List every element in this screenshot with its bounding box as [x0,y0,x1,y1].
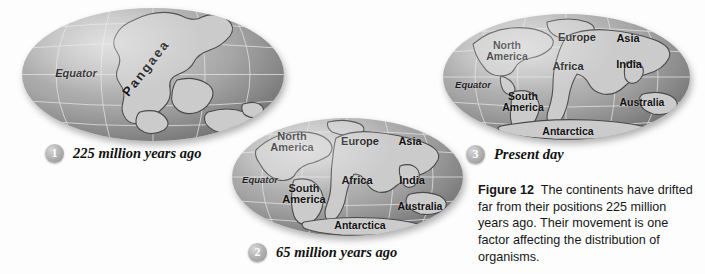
step-label-2: 65 million years ago [276,244,397,261]
step-label-1: 225 million years ago [73,145,202,162]
step-badge-2: 2 [248,243,267,262]
step-badge-3: 3 [466,145,485,164]
figure-caption-number: Figure 12 [478,183,534,197]
figure-continental-drift: Equator Pangaea 1 225 million years ago [0,0,705,274]
globe-present-day: Equator North America South America Euro… [443,14,690,140]
globe-65-million-years-ago: Equator North America South America Euro… [232,118,463,236]
figure-caption: Figure 12 The continents have drifted fa… [478,182,696,266]
landmass-present-day [443,14,690,140]
step-label-3: Present day [494,146,564,163]
step-marker-2: 2 65 million years ago [248,243,397,262]
step-marker-3: 3 Present day [466,145,564,164]
step-badge-1: 1 [45,144,64,163]
step-marker-1: 1 225 million years ago [45,144,202,163]
landmass-65mya [232,118,463,236]
